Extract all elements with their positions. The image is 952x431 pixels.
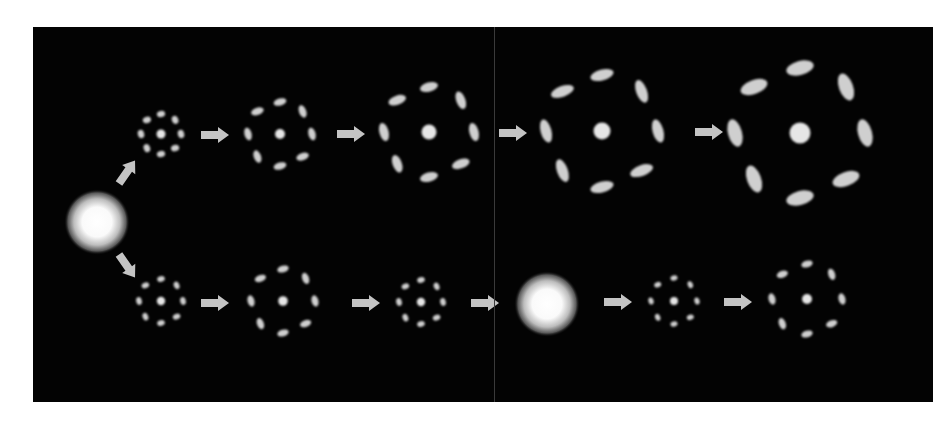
pattern-formation-figure [33, 27, 933, 402]
arrow-right-icon [112, 250, 141, 282]
arrow-right-icon [695, 124, 723, 140]
colony-stages [135, 58, 875, 339]
bottom-stage-3 [395, 276, 446, 327]
figure-canvas [33, 27, 933, 402]
top-stage-4 [538, 67, 667, 196]
arrow-right-icon [604, 294, 632, 310]
arrow-right-icon [499, 125, 527, 141]
arrow-right-icon [337, 126, 365, 142]
bottom-stage-2 [246, 264, 320, 338]
arrow-right-icon [724, 294, 752, 310]
glow-source-icon [64, 189, 130, 255]
panel-divider [494, 27, 495, 402]
top-stage-3 [377, 80, 481, 184]
arrow-right-icon [352, 295, 380, 311]
arrow-right-icon [201, 127, 229, 143]
arrow-right-icon [201, 295, 229, 311]
bottom-stage-4 [648, 275, 701, 328]
bottom-stage-1 [135, 275, 186, 326]
glow-source-icon [514, 271, 580, 337]
bottom-stage-5 [767, 259, 847, 339]
arrow-right-icon [112, 156, 141, 188]
top-stage-2 [243, 97, 317, 171]
top-stage-1 [137, 110, 185, 158]
source-glows [64, 189, 580, 337]
top-stage-5 [725, 58, 876, 209]
